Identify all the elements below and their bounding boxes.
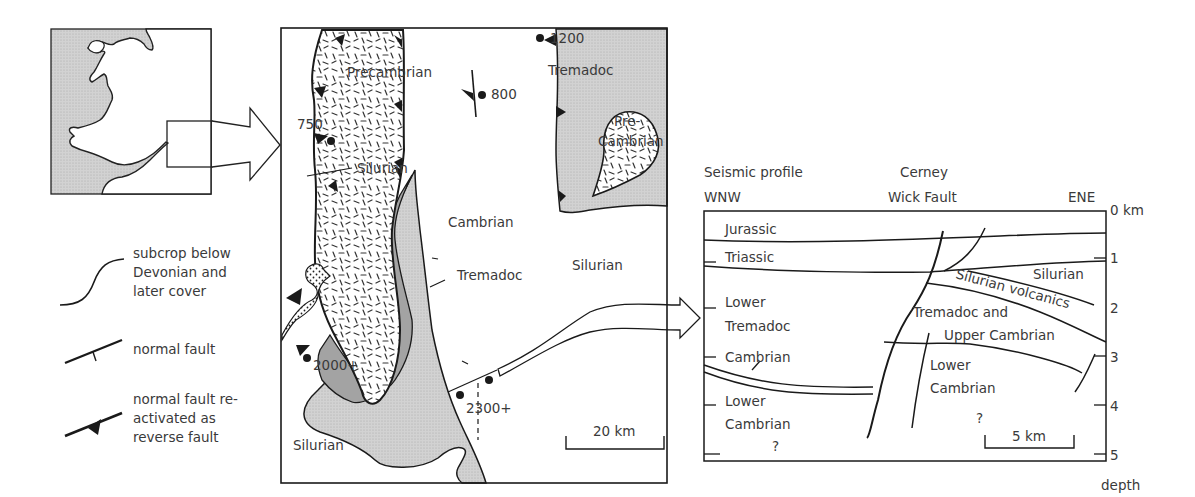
label-silurian-sw: Silurian <box>293 437 344 453</box>
zoom-arrow <box>212 108 280 180</box>
unit-tremadoc-upper-cambrian-1: Tremadoc and <box>912 304 1008 320</box>
well-1200 <box>536 34 544 42</box>
legend-reverse-fault-label: normal fault re- activated as reverse fa… <box>133 390 238 447</box>
geologic-map: Precambrian Tremadoc Pre- Cambrian Silur… <box>281 28 700 483</box>
reverse-fault-symbol <box>65 413 122 436</box>
well-label-1200: 1200 <box>550 30 584 46</box>
unit-lower-cambrian-r2: Cambrian <box>930 380 996 396</box>
profile-scale-label: 5 km <box>1012 428 1046 444</box>
anglesey-island <box>88 41 104 53</box>
unit-lower-cambrian-1: Lower <box>725 393 766 409</box>
well-label-2300: 2300+ <box>466 400 512 416</box>
unit-lower-tremadoc-2: Tremadoc <box>724 318 791 334</box>
depth-tick-2: 2 <box>1110 300 1119 316</box>
label-tremadoc-ne: Tremadoc <box>547 62 614 78</box>
unit-lower-cambrian-r1: Lower <box>930 357 971 373</box>
legend <box>60 259 124 436</box>
unit-silurian: Silurian <box>1033 266 1084 282</box>
well-label-2000: 2000+ <box>313 357 359 373</box>
ene-label: ENE <box>1068 189 1095 205</box>
unit-unknown-left: ? <box>772 438 779 454</box>
label-precambrian-inlier-1: Pre- <box>614 113 640 129</box>
label-silurian-e: Silurian <box>572 257 623 273</box>
fault-name-2: Wick Fault <box>888 189 957 205</box>
unit-lower-cambrian-2: Cambrian <box>725 416 791 432</box>
inset-location-map <box>51 29 280 194</box>
normal-fault-symbol <box>65 340 122 363</box>
wnw-label: WNW <box>704 189 741 205</box>
label-silurian-w: Silurian <box>357 160 408 176</box>
depth-tick-5: 5 <box>1110 447 1119 463</box>
well-label-750: 750 <box>297 116 323 132</box>
depth-tick-3: 3 <box>1110 349 1119 365</box>
well-750 <box>327 137 335 145</box>
well-extra <box>485 376 493 384</box>
unit-jurassic: Jurassic <box>724 221 777 237</box>
depth-tick-1: 1 <box>1110 250 1119 266</box>
map-scale-label: 20 km <box>593 423 635 439</box>
label-tremadoc-s: Tremadoc <box>456 267 523 283</box>
unit-tremadoc-upper-cambrian-2: Upper Cambrian <box>944 327 1055 343</box>
well-800 <box>478 91 486 99</box>
legend-normal-fault-label: normal fault <box>133 340 215 359</box>
seismic-title: Seismic profile <box>704 164 803 180</box>
depth-tick-0: 0 km <box>1110 202 1144 218</box>
unit-cambrian: Cambrian <box>725 349 791 365</box>
legend-subcrop-label: subcrop below Devonian and later cover <box>133 244 231 301</box>
label-precambrian-inlier-2: Cambrian <box>598 133 664 149</box>
fault-name-1: Cerney <box>900 164 948 180</box>
label-cambrian: Cambrian <box>448 214 514 230</box>
well-label-800: 800 <box>491 86 517 102</box>
well-2000 <box>303 354 311 362</box>
well-2300 <box>456 391 464 399</box>
seismic-profile: Seismic profile WNW Cerney Wick Fault EN… <box>704 164 1144 493</box>
unit-unknown-right: ? <box>976 410 983 426</box>
label-precambrian: Precambrian <box>347 64 432 80</box>
depth-tick-4: 4 <box>1110 398 1119 414</box>
unit-lower-tremadoc-1: Lower <box>725 294 766 310</box>
subcrop-line-symbol <box>60 259 124 305</box>
unit-triassic: Triassic <box>724 249 774 265</box>
depth-axis-label: depth <box>1101 477 1140 493</box>
